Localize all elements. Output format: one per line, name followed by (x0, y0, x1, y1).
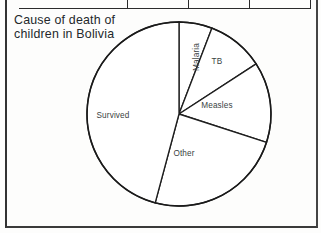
pie-slice-label-other: Other (173, 149, 194, 158)
pie-slice-label-measles: Measles (201, 101, 233, 110)
scanned-page: Cause of death of children in Bolivia Ma… (0, 0, 321, 233)
pie-chart (0, 0, 321, 233)
pie-slice-label-tb: TB (212, 57, 223, 66)
pie-slice-label-malaria: Malaria (192, 43, 201, 71)
pie-slice-label-survived: Survived (96, 111, 129, 120)
